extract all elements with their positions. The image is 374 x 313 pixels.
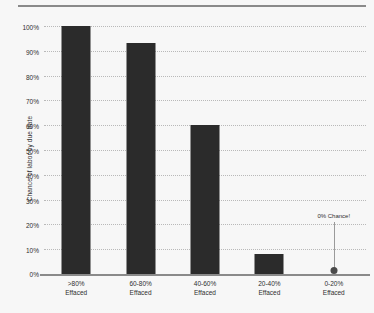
bar-slot: 40-60%Effaced bbox=[173, 26, 237, 274]
annotation-label: 0% Chance! bbox=[317, 213, 350, 219]
x-axis-tick-line: 0-20% bbox=[323, 279, 345, 288]
x-axis-line bbox=[40, 274, 370, 276]
bar[interactable] bbox=[126, 43, 155, 274]
x-axis-tick-line: >80% bbox=[65, 279, 87, 288]
y-axis-tick-label: 50% bbox=[26, 148, 39, 155]
y-axis-tick-label: 40% bbox=[26, 172, 39, 179]
bar[interactable] bbox=[255, 254, 284, 274]
x-axis-tick-line: 40-60% bbox=[194, 279, 216, 288]
x-axis-tick-line: Effaced bbox=[65, 288, 87, 297]
y-axis-tick-label: 0% bbox=[30, 271, 39, 278]
y-axis-tick-label: 70% bbox=[26, 98, 39, 105]
bar-slot: 60-80%Effaced bbox=[108, 26, 172, 274]
annotation-leader-line bbox=[334, 222, 335, 270]
y-axis-tick-label: 60% bbox=[26, 123, 39, 130]
chart-figure: Chance of labor by due date 0%10%20%30%4… bbox=[0, 0, 374, 313]
x-axis-tick-line: 60-80% bbox=[129, 279, 151, 288]
x-axis-tick-line: Effaced bbox=[258, 288, 280, 297]
y-axis-tick-label: 30% bbox=[26, 197, 39, 204]
bar[interactable] bbox=[62, 26, 91, 274]
bar-slot: 20-40%Effaced bbox=[237, 26, 301, 274]
x-axis-tick-line: 20-40% bbox=[258, 279, 280, 288]
x-axis-tick-label: 0-20%Effaced bbox=[323, 279, 345, 297]
x-axis-tick-line: Effaced bbox=[129, 288, 151, 297]
x-axis-tick-label: 20-40%Effaced bbox=[258, 279, 280, 297]
bar-slot: 0-20%Effaced0% Chance! bbox=[302, 26, 366, 274]
y-axis-tick-label: 10% bbox=[26, 247, 39, 254]
annotation-dot-marker bbox=[330, 267, 337, 274]
bar-slot: >80%Effaced bbox=[44, 26, 108, 274]
y-axis-tick-label: 90% bbox=[26, 48, 39, 55]
x-axis-tick-label: >80%Effaced bbox=[65, 279, 87, 297]
x-axis-tick-label: 60-80%Effaced bbox=[129, 279, 151, 297]
plot-area: 0%10%20%30%40%50%60%70%80%90%100% >80%Ef… bbox=[44, 26, 366, 274]
y-axis-tick-label: 100% bbox=[22, 24, 39, 31]
header-divider bbox=[18, 5, 366, 7]
x-axis-tick-label: 40-60%Effaced bbox=[194, 279, 216, 297]
bar[interactable] bbox=[190, 125, 219, 274]
x-axis-tick-line: Effaced bbox=[194, 288, 216, 297]
y-axis-tick-label: 80% bbox=[26, 73, 39, 80]
annotation: 0% Chance! bbox=[302, 26, 366, 274]
y-axis-tick-label: 20% bbox=[26, 222, 39, 229]
x-axis-tick-line: Effaced bbox=[323, 288, 345, 297]
